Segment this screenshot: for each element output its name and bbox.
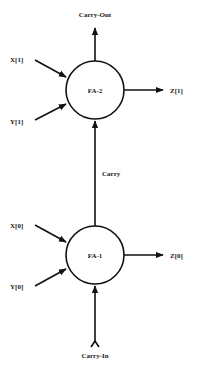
x0-label: X[0] <box>10 222 23 230</box>
y0-arrow <box>35 269 66 286</box>
fa2-label: FA-2 <box>88 87 103 95</box>
carry-out-label: Carry-Out <box>79 11 112 19</box>
y1-arrow <box>35 104 66 120</box>
fa1-label: FA-1 <box>88 252 103 260</box>
z1-label: Z[1] <box>170 87 183 95</box>
adder-diagram: Carry-Out X[1] Y[1] Z[1] FA-2 Carry X[0]… <box>0 0 202 370</box>
x1-label: X[1] <box>10 56 23 64</box>
x1-arrow <box>35 60 66 77</box>
x0-arrow <box>35 225 66 242</box>
z0-label: Z[0] <box>170 252 183 260</box>
carry-in-tail <box>91 341 99 347</box>
carry-label: Carry <box>102 170 121 178</box>
y0-label: Y[0] <box>10 283 23 291</box>
y1-label: Y[1] <box>10 118 23 126</box>
carry-in-label: Carry-In <box>81 352 108 360</box>
